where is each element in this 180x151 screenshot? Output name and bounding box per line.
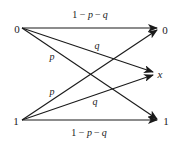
- arrow-0-to-x: [22, 28, 153, 72]
- arrow-1-to-0: [22, 30, 157, 120]
- edge-label-0-to-x: q: [95, 40, 100, 51]
- input-symbol-0: 0: [14, 23, 20, 35]
- arrow-1-to-x: [22, 75, 153, 120]
- edges-group: [22, 28, 157, 120]
- edge-label-0-to-0: 1 − p − q: [72, 9, 107, 20]
- output-symbol-x: x: [157, 68, 163, 80]
- edge-label-0-to-1: p: [49, 51, 55, 62]
- edge-label-1-to-0: p: [49, 86, 55, 97]
- edge-label-1-to-1: 1 − p − q: [71, 127, 106, 138]
- output-symbol-1: 1: [163, 115, 169, 127]
- output-symbol-0: 0: [162, 24, 168, 36]
- edge-label-1-to-x: q: [93, 96, 98, 107]
- arrow-0-to-1: [22, 28, 157, 119]
- input-symbol-1: 1: [13, 115, 19, 127]
- channel-diagram: 1 − p − qqppq1 − p − q 010x1: [0, 0, 180, 151]
